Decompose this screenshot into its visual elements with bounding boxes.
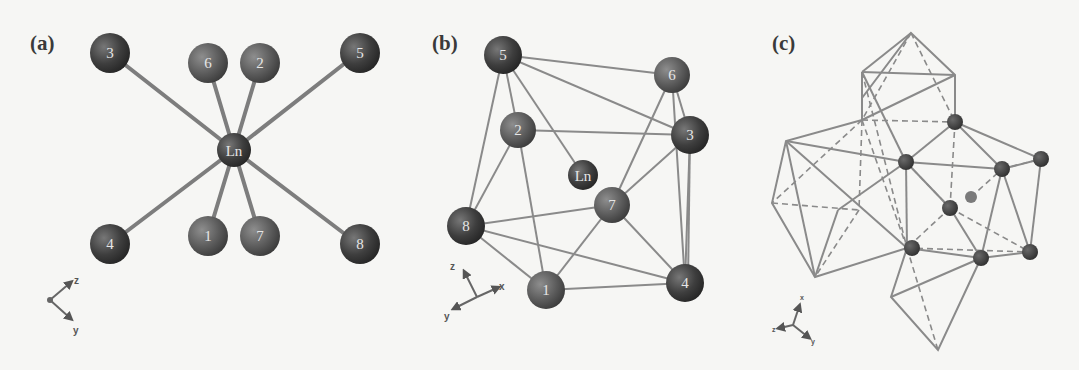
atom-5-label: 5 xyxy=(356,45,364,61)
atom-node xyxy=(898,154,914,170)
atom-ln-label: Ln xyxy=(575,168,592,184)
atom-8-label: 8 xyxy=(462,218,470,234)
atom-2-label: 2 xyxy=(256,55,264,71)
atom-7-label: 7 xyxy=(608,197,616,213)
panel-a-axes-icon: z y xyxy=(47,275,79,336)
atom-ln-center xyxy=(965,191,977,203)
atom-8-label: 8 xyxy=(356,236,364,252)
panel-c-axes-icon: x z y xyxy=(772,294,815,346)
atom-1-label: 1 xyxy=(204,228,212,244)
figure-canvas: (a) 3 6 2 5 4 1 7 8 Ln xyxy=(0,0,1079,370)
axis-x-label: x xyxy=(499,281,505,292)
panel-b-axes-icon: z x y xyxy=(444,261,505,322)
atom-node xyxy=(994,161,1010,177)
atom-ln-label: Ln xyxy=(226,143,243,159)
axis-y-label: y xyxy=(811,338,815,346)
axis-z-label: z xyxy=(74,275,79,286)
atom-3-label: 3 xyxy=(106,45,114,61)
panel-c: (c) xyxy=(772,31,1049,350)
atom-5-label: 5 xyxy=(499,47,507,63)
atom-node xyxy=(1022,244,1038,260)
atom-7-label: 7 xyxy=(256,228,264,244)
axis-y-label: y xyxy=(73,325,79,336)
atom-node xyxy=(1033,151,1049,167)
panel-b: (b) xyxy=(432,31,709,322)
axis-x-label: x xyxy=(800,294,804,301)
atom-1-label: 1 xyxy=(542,282,550,298)
atom-node xyxy=(904,240,920,256)
atom-4-label: 4 xyxy=(106,236,114,252)
axis-y-label: y xyxy=(444,311,450,322)
atom-node xyxy=(942,200,958,216)
panel-a: (a) 3 6 2 5 4 1 7 8 Ln xyxy=(30,31,380,336)
atom-2-label: 2 xyxy=(514,122,522,138)
panel-c-solid-edges xyxy=(772,33,1041,350)
atom-4-label: 4 xyxy=(681,275,689,291)
atom-6-label: 6 xyxy=(668,67,676,83)
panel-a-label: (a) xyxy=(30,31,55,55)
panel-b-label: (b) xyxy=(432,31,458,55)
atom-3-label: 3 xyxy=(686,127,694,143)
axis-z-label: z xyxy=(772,326,776,333)
axis-z-label: z xyxy=(450,261,455,272)
atom-node xyxy=(973,250,989,266)
atom-node xyxy=(947,114,963,130)
panel-c-label: (c) xyxy=(772,31,795,55)
atom-6-label: 6 xyxy=(204,55,212,71)
